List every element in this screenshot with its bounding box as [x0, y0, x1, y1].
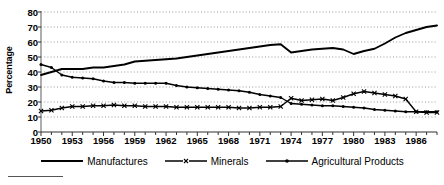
data-point — [123, 81, 126, 84]
data-point — [112, 81, 115, 84]
legend-item-manufactures[interactable]: Manufactures — [40, 156, 148, 167]
x-tick-label: 1971 — [249, 135, 270, 146]
data-point — [425, 110, 428, 113]
data-point — [81, 77, 84, 80]
legend-label: Agricultural Products — [312, 156, 404, 167]
data-point — [165, 82, 168, 85]
x-tick-label: 1983 — [374, 135, 395, 146]
data-point — [40, 63, 43, 66]
data-point — [92, 77, 95, 80]
data-point — [404, 110, 407, 113]
chart-container: Percentage 01020304050607080 19501953195… — [0, 0, 444, 185]
x-tick-label: 1950 — [30, 135, 51, 146]
series-line — [41, 65, 437, 112]
data-point — [321, 104, 324, 107]
chart-legend: ManufacturesMineralsAgricultural Product… — [0, 152, 444, 170]
data-point — [185, 86, 188, 89]
legend-marker-dot-icon — [265, 156, 309, 166]
data-point — [373, 108, 376, 111]
legend-item-agricultural-products[interactable]: Agricultural Products — [265, 156, 404, 167]
data-point — [144, 82, 147, 85]
data-point — [227, 89, 230, 92]
data-point — [258, 93, 261, 96]
data-point — [310, 104, 313, 107]
data-point — [133, 82, 136, 85]
legend-marker-x-icon — [164, 156, 208, 166]
data-point — [415, 110, 418, 113]
x-tick-label: 1974 — [281, 135, 302, 146]
data-point — [238, 89, 241, 92]
data-point — [342, 105, 345, 108]
gridlines — [41, 12, 437, 117]
legend-item-minerals[interactable]: Minerals — [164, 156, 249, 167]
x-tick-label: 1953 — [62, 135, 83, 146]
data-point — [71, 76, 74, 79]
data-point — [50, 66, 53, 69]
x-tick-label: 1986 — [406, 135, 427, 146]
data-point — [394, 110, 397, 113]
x-tick-label: 1977 — [312, 135, 333, 146]
x-tick-label: 1968 — [218, 135, 239, 146]
legend-marker-none-icon — [40, 156, 84, 166]
legend-label: Minerals — [211, 156, 249, 167]
x-tick-label: 1956 — [93, 135, 114, 146]
data-point — [248, 91, 251, 94]
x-tick-label: 1959 — [124, 135, 145, 146]
data-point — [60, 74, 63, 77]
data-point — [352, 106, 355, 109]
data-point — [300, 103, 303, 106]
data-point — [196, 86, 199, 89]
x-tick-label: 1965 — [187, 135, 208, 146]
data-point — [269, 95, 272, 98]
footer-divider — [8, 176, 63, 177]
x-tick-label: 1980 — [343, 135, 364, 146]
data-point — [206, 87, 209, 90]
data-point — [436, 110, 439, 113]
x-axis-tick-labels: 1950195319561959196219651968197119741977… — [0, 135, 444, 149]
data-point — [363, 107, 366, 110]
data-point — [290, 102, 293, 105]
data-point — [383, 109, 386, 112]
data-point — [217, 88, 220, 91]
data-point — [331, 104, 334, 107]
x-tick-label: 1962 — [155, 135, 176, 146]
data-point — [102, 80, 105, 83]
series-manufactures — [41, 26, 437, 76]
data-point — [279, 96, 282, 99]
series-line — [41, 26, 437, 76]
data-point — [154, 82, 157, 85]
data-point — [175, 84, 178, 87]
legend-label: Manufactures — [87, 156, 148, 167]
data-series-group — [39, 26, 439, 115]
